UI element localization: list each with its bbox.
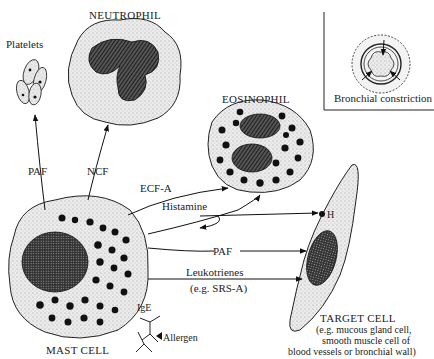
target-cell-illustration [290,164,359,331]
bronchial-constriction-caption: Bronchial constriction [334,93,432,104]
target-cell-desc-line-3: blood vessels or bronchial wall) [288,347,416,357]
histamine-label: Histamine [162,201,207,212]
eosinophil-label: EOSINOPHIL [222,94,290,105]
ige-label: IgE [137,303,151,313]
paf-target-label: PAF [213,246,232,257]
leukotrienes-example-label: (e.g. SRS-A) [190,283,247,294]
h-receptor-label: H [327,210,334,220]
leukotrienes-label: Leukotrienes [186,267,243,278]
paf-platelets-label: PAF [28,166,47,177]
neutrophil-label: NEUTROPHIL [89,10,161,21]
ncf-label: NCF [87,166,108,177]
diagram-canvas [0,0,434,359]
target-cell-desc-line-2: smooth muscle cell of [322,336,410,346]
ecf-a-label: ECF-A [140,183,172,194]
allergen-label: Allergen [163,333,198,343]
mast-cell-label: MAST CELL [46,345,109,356]
eosinophil-illustration [208,100,313,193]
neutrophil-illustration [68,19,181,126]
target-cell-label: TARGET CELL [320,313,396,324]
platelets-illustration [14,57,49,105]
allergen-marker [156,332,162,340]
mast-cell-illustration [9,196,149,338]
target-cell-desc-line-1: (e.g. mucous gland cell, [316,325,412,335]
ige-antibody-illustration [136,316,160,352]
platelets-label: Platelets [6,39,43,50]
